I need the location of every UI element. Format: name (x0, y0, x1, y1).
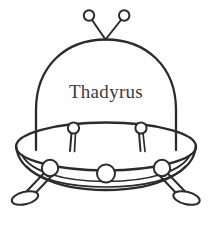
right-antenna-bulb (119, 10, 129, 20)
right-porthole (154, 160, 170, 176)
left-landing-foot (10, 189, 39, 208)
nameplate-label: Thadyrus (69, 81, 143, 102)
left-porthole (42, 160, 58, 176)
left-antenna-stalk (92, 20, 106, 40)
right-landing-foot (172, 189, 201, 208)
left-antenna-bulb (84, 10, 94, 20)
center-porthole (97, 165, 115, 183)
left-deck-pin-stalk-edge (75, 133, 76, 152)
left-deck-pin-stalk (70, 133, 72, 151)
right-deck-pin-stalk (139, 133, 141, 151)
right-antenna-stalk (106, 20, 122, 40)
illustration-canvas: Thadyrus (0, 0, 212, 229)
right-deck-pin-bulb (135, 122, 146, 133)
flying-saucer-illustration: Thadyrus (0, 0, 212, 229)
antenna-group (84, 10, 130, 39)
right-deck-pin-stalk-edge (143, 133, 145, 152)
left-deck-pin-bulb (68, 122, 79, 133)
porthole-group (42, 160, 170, 183)
deck-pin-group (68, 122, 147, 151)
